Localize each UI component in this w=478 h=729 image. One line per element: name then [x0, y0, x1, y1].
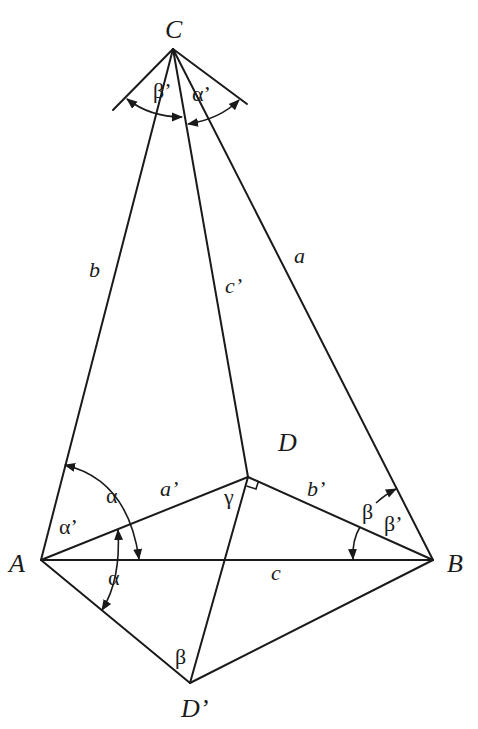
- angle-label-alpha: α: [106, 483, 118, 508]
- angle-label-beta-prime-C: β’: [153, 78, 172, 103]
- point-label-D: D: [277, 428, 297, 457]
- angle-label-beta-D-prime: β: [175, 644, 186, 669]
- side-label-c-prime: c’: [225, 273, 242, 298]
- angle-label-alpha-prime-C: α’: [192, 81, 211, 106]
- side-label-c: c: [271, 560, 281, 585]
- point-label-C: C: [165, 15, 183, 44]
- point-label-D-prime: D’: [180, 694, 208, 723]
- arc-beta-B-upper: [376, 489, 396, 503]
- angle-label-beta-prime-B: β’: [384, 511, 403, 536]
- side-label-a: a: [294, 243, 305, 268]
- edge-BD-prime: [190, 560, 433, 683]
- geometry-diagram: C D A B D’ b a c’ a’ b’ c β’ α’ α α’ α γ…: [0, 0, 478, 729]
- angle-label-alpha-lower: α: [108, 565, 120, 590]
- point-label-A: A: [7, 549, 25, 578]
- side-label-b-prime: b’: [307, 476, 325, 501]
- angle-label-beta-B: β: [362, 499, 373, 524]
- angle-label-gamma: γ: [223, 484, 234, 509]
- angle-label-alpha-prime-A: α’: [59, 514, 78, 539]
- right-angle-marker: [247, 481, 259, 489]
- side-label-a-prime: a’: [160, 476, 178, 501]
- side-label-b: b: [89, 257, 100, 282]
- point-label-B: B: [447, 549, 463, 578]
- arc-beta-B: [353, 527, 360, 559]
- edge-CD-side-c-prime: [173, 49, 248, 477]
- edge-DD-prime: [190, 477, 248, 683]
- edge-BD-side-b-prime: [248, 477, 433, 560]
- edge-BC-side-a: [173, 49, 433, 560]
